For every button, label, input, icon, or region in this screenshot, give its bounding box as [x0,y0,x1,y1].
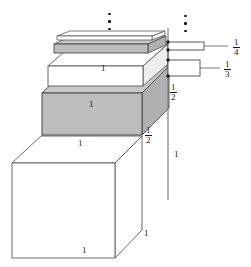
label-cube-top-depth: 1 [78,139,83,148]
callout-one-third [166,58,220,77]
slab-one-fourth-front-face [54,44,148,53]
callout-one-fourth [166,40,228,51]
callout-one-fourth-tick-bottom [166,48,169,51]
stacked-boxes-diagram [0,0,251,267]
figure-root: 1 1 1 1 1 1 1 2 1 2 1 3 1 4 [0,0,251,267]
callout-one-fourth-box [168,42,204,50]
dimension-one-fourth: 1 4 [233,38,240,57]
label-cube-right-height: 1 [174,150,179,159]
dimension-one-third: 1 3 [224,60,231,79]
unit-cube-front-face [12,163,115,258]
label-cube-front-bottom: 1 [82,246,87,255]
one-half-depth-denominator: 2 [145,136,152,145]
slab-one-fifth [57,31,165,40]
one-fourth-denominator: 4 [233,48,240,57]
one-third-denominator: 3 [224,70,231,79]
one-half-right-denominator: 2 [170,93,177,102]
slab-one-fifth-top-face [57,31,165,36]
unit-cube [12,136,142,258]
ellipsis-over-stack [108,13,111,30]
callout-one-third-tick-top [166,58,169,61]
slab-one-fifth-front-face [57,36,152,40]
callout-one-fourth-tick-top [166,40,169,43]
label-slab-half-front: 1 [89,100,94,109]
slab-one-third-front-face [48,66,143,86]
label-cube-right-depth: 1 [144,229,149,238]
dimension-one-half-right: 1 2 [170,83,177,102]
ellipsis-over-callouts [184,15,187,32]
label-slab-third-front: 1 [101,64,106,73]
callout-one-third-tick-bottom [166,74,169,77]
callout-one-third-box [168,60,200,76]
dimension-one-half-depth: 1 2 [145,126,152,145]
